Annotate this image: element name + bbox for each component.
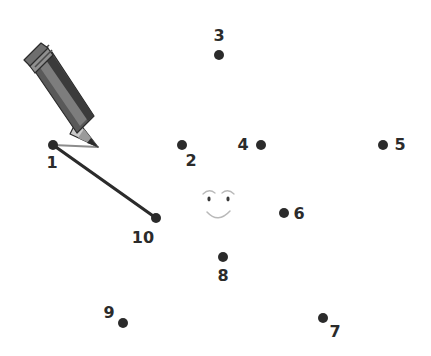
dot-label-4: 4	[237, 137, 248, 153]
puzzle-canvas: 12345678910	[0, 0, 431, 356]
drawn-line-group	[53, 145, 156, 218]
dot-7[interactable]	[318, 313, 328, 323]
dot-5[interactable]	[378, 140, 388, 150]
dot-label-8: 8	[217, 268, 228, 284]
drawn-line-1-to-10	[53, 145, 156, 218]
guide-line	[53, 145, 98, 147]
dot-6[interactable]	[279, 208, 289, 218]
dot-label-9: 9	[103, 305, 114, 321]
dot-8[interactable]	[218, 252, 228, 262]
connect-the-dots-figure	[0, 0, 431, 356]
dot-9[interactable]	[118, 318, 128, 328]
dot-label-2: 2	[185, 153, 196, 169]
dot-label-5: 5	[394, 137, 405, 153]
dot-1[interactable]	[48, 140, 58, 150]
pencil-body-highlight	[39, 57, 88, 126]
smiley-face	[203, 191, 234, 218]
right-eyebrow-icon	[222, 191, 234, 194]
pencil-icon	[24, 43, 98, 147]
dot-label-3: 3	[213, 28, 224, 44]
dot-2[interactable]	[177, 140, 187, 150]
mouth-icon	[207, 211, 230, 218]
dot-label-1: 1	[46, 155, 57, 171]
left-eyebrow-icon	[203, 191, 215, 194]
dot-label-10: 10	[132, 230, 154, 246]
dot-label-7: 7	[329, 324, 340, 340]
left-eye-icon	[207, 197, 210, 202]
dot-10[interactable]	[151, 213, 161, 223]
dot-3[interactable]	[214, 50, 224, 60]
right-eye-icon	[226, 197, 229, 202]
dot-label-6: 6	[293, 206, 304, 222]
dot-4[interactable]	[256, 140, 266, 150]
dot-group	[48, 50, 388, 328]
